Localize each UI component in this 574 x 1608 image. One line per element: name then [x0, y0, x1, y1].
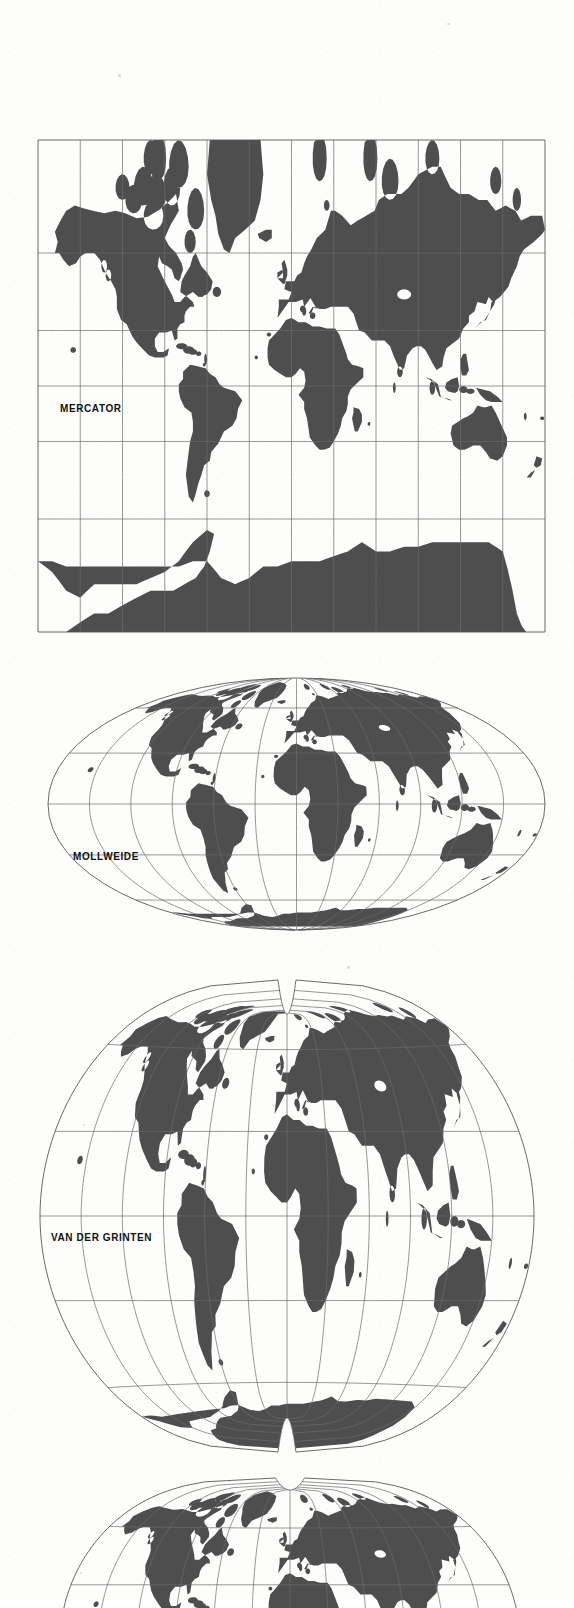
graticule-lines: [48, 679, 545, 930]
van-der-grinten-graticule: [40, 990, 534, 1441]
figure-van-der-grinten: [0, 966, 574, 1462]
scan-speck: [118, 74, 121, 77]
scan-speck: [269, 1481, 272, 1483]
scan-speck: [347, 966, 350, 969]
van-der-grinten-landmasses: [77, 1003, 528, 1452]
figure-mercator: [0, 132, 574, 644]
coastline-fill: [88, 682, 537, 926]
mercator-map-svg: [0, 132, 574, 644]
scan-speck: [80, 1572, 82, 1574]
van-der-grinten-map-svg: [0, 966, 574, 1462]
coastline-fill: [77, 1003, 528, 1452]
mollweide-graticule: [48, 679, 545, 930]
figure-fourth-cropped: [0, 1468, 574, 1608]
graticule-lines: [40, 990, 534, 1441]
scan-speck: [83, 1124, 85, 1126]
projection-label-mollweide: MOLLWEIDE: [73, 851, 139, 862]
mollweide-landmasses: [88, 682, 537, 926]
projection-label-mercator: MERCATOR: [60, 403, 122, 414]
fourth-map-svg: [0, 1468, 574, 1608]
mollweide-map-svg: [0, 662, 574, 946]
scan-speck: [447, 23, 450, 25]
projection-label-van-der-grinten: VAN DER GRINTEN: [51, 1232, 152, 1243]
figure-mollweide: [0, 662, 574, 946]
